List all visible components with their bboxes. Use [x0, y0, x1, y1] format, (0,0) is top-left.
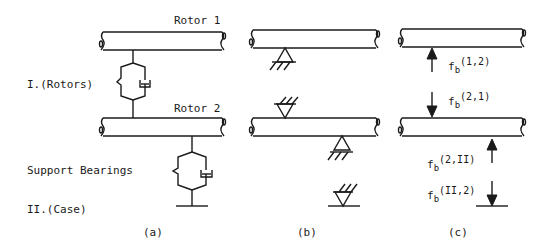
panel-a-rotor-2-shaft — [100, 118, 226, 136]
panel-b-rotor-1-shaft — [250, 30, 380, 48]
force-arrow-down-II-2 — [476, 181, 508, 206]
case-level-label: II.(Case) — [27, 204, 87, 215]
force-arrow-up-2-II — [487, 139, 497, 163]
force-arrow-up-1-2 — [427, 48, 437, 72]
panel-a-caption: (a) — [143, 227, 163, 238]
force-arrow-down-2-1 — [427, 92, 437, 117]
rotor-2-pin-support-below — [328, 136, 353, 160]
panel-c-rotor-1-shaft — [399, 29, 526, 47]
force-label-II-2: fb(II,2) — [427, 186, 475, 204]
rotor-1-label: Rotor 1 — [174, 15, 220, 26]
case-pin-support-above — [328, 184, 360, 206]
force-label-2-1: fb(2,1) — [448, 92, 490, 110]
rotor-2-pin-support-above — [274, 97, 298, 118]
panel-b-caption: (b) — [297, 227, 317, 238]
support-bearing-spring-damper — [173, 136, 212, 206]
panel-a-rotor-1-shaft — [100, 32, 226, 50]
panel-c-rotor-2-shaft — [399, 118, 526, 136]
rotor-1-pin-support-below — [270, 48, 296, 70]
support-bearings-label: Support Bearings — [27, 165, 133, 176]
rotor-2-label: Rotor 2 — [174, 103, 220, 114]
inter-rotor-spring-damper — [117, 50, 150, 118]
panel-b-rotor-2-shaft — [250, 118, 380, 136]
rotors-level-label: I.(Rotors) — [27, 79, 93, 90]
force-label-2-II: fb(2,II) — [427, 155, 475, 173]
force-label-1-2: fb(1,2) — [448, 57, 490, 75]
panel-c-caption: (c) — [448, 227, 468, 238]
